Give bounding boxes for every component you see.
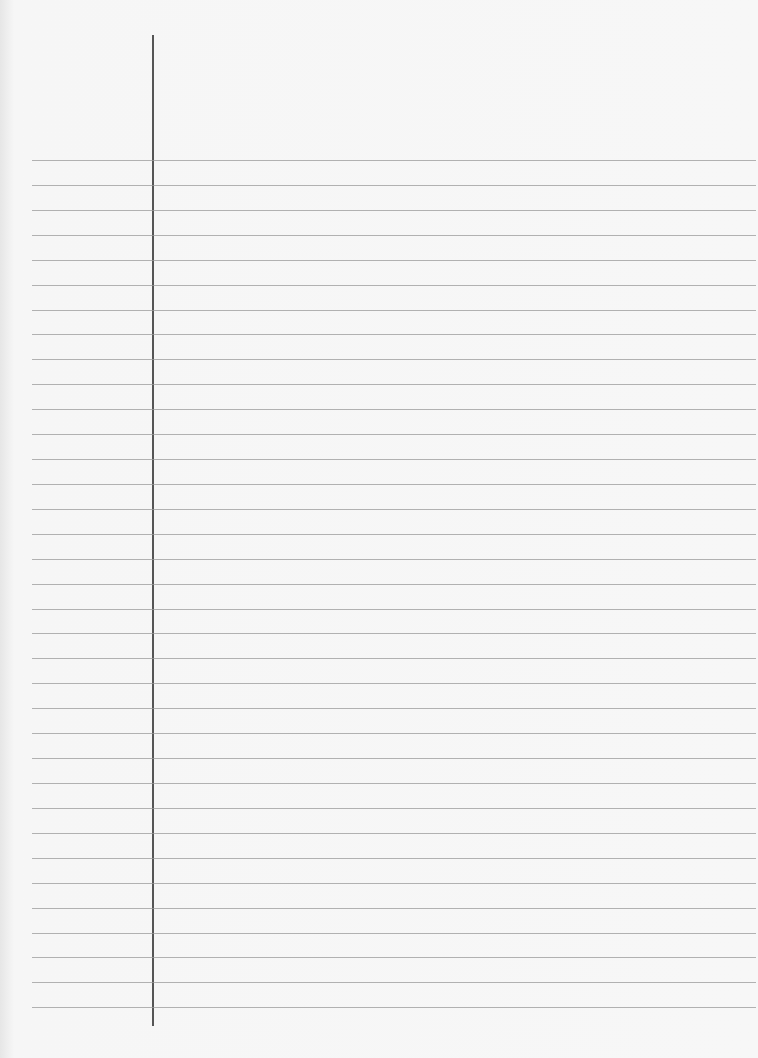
ruled-line (32, 310, 756, 311)
ruled-line (32, 285, 756, 286)
ruled-line (32, 434, 756, 435)
ruled-line (32, 334, 756, 335)
ruled-line (32, 658, 756, 659)
ruled-line (32, 783, 756, 784)
ruled-line (32, 409, 756, 410)
ruled-line (32, 459, 756, 460)
ruled-line (32, 160, 756, 161)
margin-line (152, 35, 154, 1026)
ruled-line (32, 957, 756, 958)
ruled-line (32, 908, 756, 909)
ruled-line (32, 883, 756, 884)
ruled-line (32, 683, 756, 684)
ruled-line (32, 559, 756, 560)
ruled-line (32, 484, 756, 485)
ruled-line (32, 633, 756, 634)
ruled-line (32, 584, 756, 585)
ruled-line (32, 808, 756, 809)
ruled-line (32, 235, 756, 236)
ruled-line (32, 733, 756, 734)
notebook-page (0, 0, 758, 1058)
ruled-line (32, 933, 756, 934)
ruled-line (32, 534, 756, 535)
ruled-line (32, 1007, 756, 1008)
ruled-line (32, 609, 756, 610)
ruled-line (32, 509, 756, 510)
ruled-line (32, 359, 756, 360)
ruled-line (32, 708, 756, 709)
ruled-line (32, 185, 756, 186)
ruled-line (32, 210, 756, 211)
ruled-line (32, 758, 756, 759)
ruled-line (32, 260, 756, 261)
ruled-line (32, 982, 756, 983)
ruled-line (32, 858, 756, 859)
ruled-line (32, 833, 756, 834)
ruled-line (32, 384, 756, 385)
